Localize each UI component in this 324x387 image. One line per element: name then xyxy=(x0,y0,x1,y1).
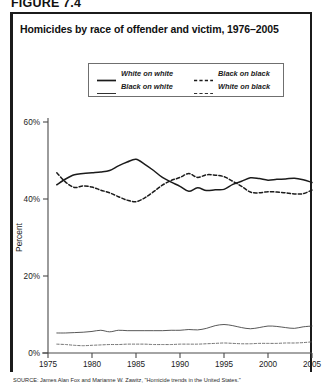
y-tick-label: 40% xyxy=(24,195,40,204)
source-text: SOURCE: James Alan Fox and Marianne W. Z… xyxy=(13,377,241,383)
y-tick-label: 20% xyxy=(24,272,40,281)
x-tick-label: 1980 xyxy=(83,360,102,369)
x-tick-label: 1995 xyxy=(215,360,234,369)
y-tick-label: 60% xyxy=(24,118,40,127)
x-tick-label: 1990 xyxy=(171,360,190,369)
source-note: SOURCE: James Alan Fox and Marianne W. Z… xyxy=(13,377,313,387)
y-axis-label: Percent xyxy=(14,222,24,252)
series-line xyxy=(57,173,312,202)
series-line xyxy=(57,325,312,333)
x-tick-label: 2005 xyxy=(303,360,322,369)
series-line xyxy=(57,342,312,346)
y-tick-label: 0% xyxy=(28,349,40,358)
x-tick-label: 1975 xyxy=(39,360,58,369)
x-tick-label: 2000 xyxy=(259,360,278,369)
line-chart: 0%20%40%60%1975198019851990199520002005P… xyxy=(0,0,324,387)
x-tick-label: 1985 xyxy=(127,360,146,369)
